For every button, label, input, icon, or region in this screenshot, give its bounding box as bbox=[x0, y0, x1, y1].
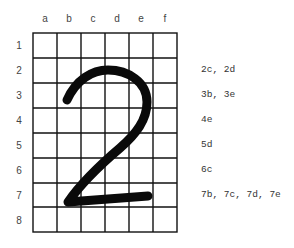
grid-diagram bbox=[0, 0, 294, 248]
handwritten-digit-2 bbox=[67, 70, 148, 202]
cell-note-row-6: 6c bbox=[201, 164, 212, 176]
cell-note-row-4: 4e bbox=[201, 114, 212, 126]
cell-note-row-7: 7b, 7c, 7d, 7e bbox=[201, 189, 281, 201]
cell-note-row-2: 2c, 2d bbox=[201, 64, 235, 76]
cell-note-row-3: 3b, 3e bbox=[201, 89, 235, 101]
cell-note-row-5: 5d bbox=[201, 139, 212, 151]
